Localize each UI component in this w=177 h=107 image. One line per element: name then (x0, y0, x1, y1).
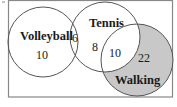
volleyball-only-count: 10 (36, 48, 48, 62)
tennis-walking-count: 10 (109, 46, 121, 60)
tennis-label: Tennis (89, 16, 124, 30)
volleyball-label: Volleyball (20, 29, 74, 43)
tennis-only-count: 8 (92, 40, 98, 54)
volleyball-tennis-count: 6 (72, 31, 78, 45)
venn-diagram: Volleyball Tennis Walking 10 6 8 10 22 (0, 0, 177, 107)
walking-label: Walking (115, 73, 161, 87)
walking-only-count: 22 (138, 51, 150, 65)
